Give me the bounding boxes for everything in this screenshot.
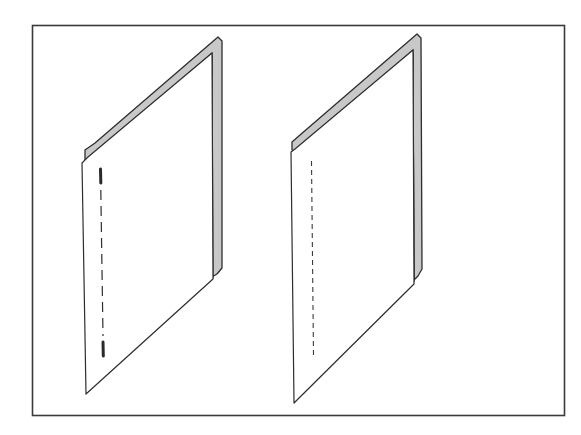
right-front-sheet [291,50,414,403]
diagram-svg [0,0,581,435]
right-folder [291,34,422,403]
left-folder [82,37,222,394]
